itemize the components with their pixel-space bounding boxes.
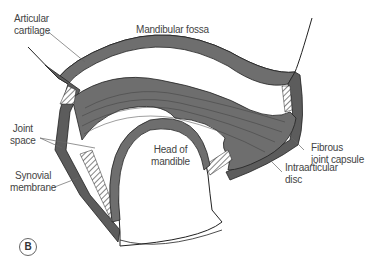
synovial-hatch-upper-left bbox=[60, 86, 76, 104]
label-mandibular-fossa: Mandibular fossa bbox=[136, 24, 209, 36]
label-articular-cartilage: Articular cartilage bbox=[14, 13, 50, 37]
panel-label-badge: B bbox=[19, 238, 37, 256]
label-synovial-membrane: Synovial membrane bbox=[10, 170, 56, 194]
synovial-hatch-upper-right bbox=[282, 86, 292, 112]
tmj-diagram bbox=[0, 0, 367, 264]
label-intraarticular-disc: Intraarticular disc bbox=[285, 162, 338, 186]
label-joint-space: Joint space bbox=[10, 123, 36, 147]
label-head-of-mandible: Head of mandible bbox=[151, 144, 190, 168]
fossa-cartilage bbox=[58, 35, 295, 85]
